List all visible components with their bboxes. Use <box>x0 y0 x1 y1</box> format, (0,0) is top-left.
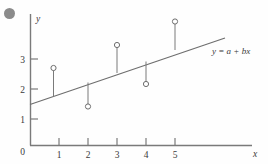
equation-label: y = a + bx <box>211 46 250 56</box>
data-point-2[interactable] <box>85 104 90 109</box>
y-tick-label-1: 1 <box>20 115 25 125</box>
data-point-1[interactable] <box>51 65 56 70</box>
y-tick-label-2: 2 <box>20 85 25 95</box>
data-point-3[interactable] <box>114 42 119 47</box>
axes <box>30 14 252 146</box>
x-tick-label-1: 1 <box>57 150 62 160</box>
x-tick-label-4: 4 <box>144 150 149 160</box>
y-tick-label-0: 0 <box>20 147 25 157</box>
x-tick-label-3: 3 <box>115 150 120 160</box>
x-axis-ticks <box>59 138 175 146</box>
data-points <box>51 19 178 109</box>
y-axis-label: y <box>35 14 41 24</box>
residual-stems <box>54 23 176 105</box>
data-point-4[interactable] <box>143 81 148 86</box>
x-axis-label: x <box>252 149 258 159</box>
data-point-5[interactable] <box>172 19 177 24</box>
scatter-plot: 3 2 1 0 1 2 3 4 5 y x <box>0 0 268 164</box>
y-axis-ticks <box>31 59 39 119</box>
figure-canvas: 3 2 1 0 1 2 3 4 5 y x <box>0 0 268 164</box>
y-tick-label-3: 3 <box>20 55 25 65</box>
regression-line <box>30 38 225 105</box>
x-tick-label-2: 2 <box>86 150 91 160</box>
x-tick-label-5: 5 <box>173 150 178 160</box>
